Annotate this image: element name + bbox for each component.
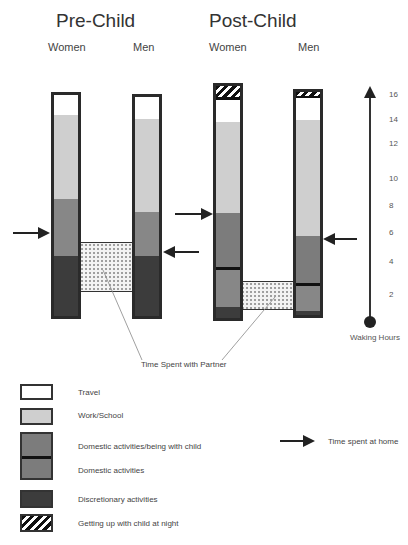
legend-label-domestic-child: Domestic activities/being with child	[78, 442, 201, 451]
legend-label-discretionary: Discretionary activities	[78, 495, 158, 504]
legend-swatch-travel	[20, 384, 53, 400]
legend-label-travel: Travel	[78, 388, 100, 397]
tick-label: 8	[389, 201, 393, 210]
legend-label-night: Getting up with child at night	[78, 519, 179, 528]
legend-swatch-work	[20, 408, 53, 425]
legend-swatch-night	[20, 514, 53, 532]
legend-label-domestic: Domestic activities	[78, 466, 144, 475]
tick-label: 14	[389, 115, 398, 124]
tick-label: 10	[389, 174, 398, 183]
tick-label: 2	[389, 290, 393, 299]
legend-swatch-discretionary	[20, 490, 53, 508]
axis-origin-dot	[364, 316, 376, 328]
legend-swatch-domestic-group	[20, 432, 53, 480]
axis-label: Waking Hours	[350, 333, 400, 342]
tick-label: 16	[389, 90, 398, 99]
tick-label: 6	[389, 228, 393, 237]
partner-leader-lines	[0, 0, 408, 545]
partner-annotation: Time Spent with Partner	[141, 360, 227, 369]
tick-label: 4	[389, 257, 393, 266]
tick-label: 12	[389, 139, 398, 148]
legend-label-work: Work/School	[78, 411, 123, 420]
legend-label-home: Time spent at home	[328, 437, 398, 446]
axis-arrowhead-icon	[364, 86, 376, 98]
